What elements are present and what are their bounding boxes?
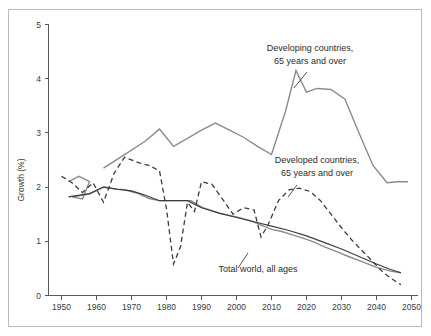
x-tick-label-2000: 2000 bbox=[227, 302, 246, 312]
x-tick-marks bbox=[62, 296, 412, 300]
y-tick-marks bbox=[45, 25, 49, 296]
leader-line-developed bbox=[288, 185, 297, 197]
line-chart: 0 1 2 3 4 5 1950 1960 1970 1980 1990 200… bbox=[0, 0, 431, 336]
y-tick-label-1: 1 bbox=[36, 236, 41, 246]
annotation-developed-line1: Developed countries, bbox=[275, 155, 360, 165]
x-tick-label-2050: 2050 bbox=[402, 302, 421, 312]
x-tick-label-1950: 1950 bbox=[52, 302, 71, 312]
series-total-world bbox=[69, 187, 402, 273]
x-tick-label-1980: 1980 bbox=[157, 302, 176, 312]
chart-figure: 0 1 2 3 4 5 1950 1960 1970 1980 1990 200… bbox=[0, 0, 431, 336]
x-tick-label-2030: 2030 bbox=[332, 302, 351, 312]
series-developing-lower bbox=[69, 176, 402, 272]
x-tick-label-1970: 1970 bbox=[122, 302, 141, 312]
x-tick-label-2010: 2010 bbox=[262, 302, 281, 312]
annotation-developed-line2: 65 years and over bbox=[281, 168, 353, 178]
annotation-developing-line1: Developing countries, bbox=[267, 43, 354, 53]
x-tick-label-1990: 1990 bbox=[192, 302, 211, 312]
annotation-world-line1: Total world, all ages bbox=[218, 264, 298, 274]
y-tick-label-3: 3 bbox=[36, 128, 41, 138]
leader-line-developing bbox=[294, 72, 307, 88]
y-tick-label-0: 0 bbox=[36, 291, 41, 301]
x-tick-label-1960: 1960 bbox=[87, 302, 106, 312]
x-tick-label-2020: 2020 bbox=[297, 302, 316, 312]
y-tick-label-4: 4 bbox=[36, 74, 41, 84]
y-tick-label-5: 5 bbox=[36, 20, 41, 30]
x-tick-label-2040: 2040 bbox=[367, 302, 386, 312]
y-tick-label-2: 2 bbox=[36, 182, 41, 192]
y-axis-title: Growth (%) bbox=[16, 158, 26, 201]
annotation-developing-line2: 65 years and over bbox=[274, 56, 346, 66]
